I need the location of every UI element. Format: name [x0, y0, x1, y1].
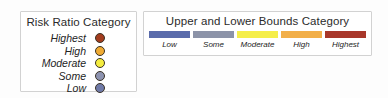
risk-ratio-legend-item-label: Low [21, 82, 95, 94]
bounds-legend-item: Some [193, 31, 234, 50]
legend-figure: Risk Ratio Category HighestHighModerateS… [0, 0, 388, 98]
risk-ratio-legend-list: HighestHighModerateSomeLow [21, 32, 136, 95]
risk-ratio-legend-title: Risk Ratio Category [21, 16, 136, 28]
risk-ratio-legend-item: Low [21, 82, 136, 94]
risk-ratio-legend-color-circle [95, 58, 105, 68]
bounds-legend-item-label: High [281, 40, 322, 50]
bounds-legend-item: Moderate [237, 31, 278, 50]
bounds-legend-item: Highest [325, 31, 366, 50]
bounds-legend-item-label: Moderate [237, 40, 278, 50]
risk-ratio-legend-item-label: High [21, 45, 95, 57]
risk-ratio-legend-color-circle [95, 46, 105, 56]
bounds-legend-item: High [281, 31, 322, 50]
bounds-legend-color-swatch [193, 31, 234, 38]
bounds-legend-item-label: Some [193, 40, 234, 50]
bounds-legend-color-swatch [281, 31, 322, 38]
bounds-legend-title: Upper and Lower Bounds Category [144, 15, 371, 27]
bounds-legend-panel: Upper and Lower Bounds Category LowSomeM… [143, 11, 372, 56]
risk-ratio-legend-item-label: Some [21, 70, 95, 82]
risk-ratio-legend-item: Highest [21, 32, 136, 44]
bounds-legend-item-label: Highest [325, 40, 366, 50]
risk-ratio-legend-item: High [21, 45, 136, 57]
risk-ratio-legend-item: Some [21, 70, 136, 82]
risk-ratio-legend-item-label: Highest [21, 32, 95, 44]
risk-ratio-legend-item-label: Moderate [21, 57, 95, 69]
bounds-legend-item-label: Low [149, 40, 190, 50]
risk-ratio-legend-panel: Risk Ratio Category HighestHighModerateS… [20, 11, 137, 92]
bounds-legend-color-swatch [325, 31, 366, 38]
bounds-legend-scale: LowSomeModerateHighHighest [149, 31, 366, 50]
risk-ratio-legend-item: Moderate [21, 57, 136, 69]
risk-ratio-legend-color-circle [95, 83, 105, 93]
risk-ratio-legend-color-circle [95, 71, 105, 81]
risk-ratio-legend-color-circle [95, 33, 105, 43]
bounds-legend-item: Low [149, 31, 190, 50]
bounds-legend-color-swatch [149, 31, 190, 38]
bounds-legend-color-swatch [237, 31, 278, 38]
